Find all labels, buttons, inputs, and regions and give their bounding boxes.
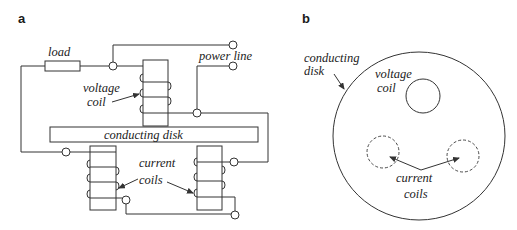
conducting-disk-label-line2: disk	[304, 64, 325, 78]
right-coil-output-terminal	[231, 211, 239, 219]
watt-hour-meter-diagram: a load	[0, 0, 517, 230]
voltage-coil-label-line1: voltage	[375, 67, 412, 81]
load-label: load	[48, 45, 71, 59]
power-line-label: power line	[198, 49, 253, 63]
current-coils-label-line2: coils	[404, 187, 428, 201]
load-resistor	[45, 61, 80, 71]
current-coil-right	[194, 146, 225, 210]
power-line-terminal-top	[229, 41, 237, 49]
voltage-coil-circle	[406, 79, 440, 113]
conducting-disk-label: conducting disk	[104, 128, 183, 142]
panel-b-label: b	[302, 11, 310, 26]
conducting-disk-label-line1: conducting	[304, 51, 360, 65]
current-coils-label-line1: current	[396, 171, 433, 185]
node-terminal	[109, 62, 117, 70]
voltage-coil-label-line2: coil	[377, 81, 396, 95]
node-terminal-right	[193, 109, 201, 117]
panel-a-label: a	[18, 11, 26, 26]
conducting-disk-arrow	[334, 74, 344, 89]
panel-b: b conducting disk voltage coil current c…	[302, 11, 505, 220]
voltage-coil-label-line2: coil	[87, 95, 106, 109]
panel-a: a load	[18, 11, 268, 219]
voltage-coil-arrow	[112, 94, 139, 102]
voltage-coil-label-line1: voltage	[83, 81, 120, 95]
current-coils-label-line1: current	[139, 156, 176, 170]
power-line-terminal-bottom	[229, 62, 237, 70]
current-coil-arrow-left	[119, 179, 138, 188]
current-coil-terminal-right	[230, 158, 238, 166]
current-coil-circle-right	[447, 140, 479, 172]
current-coil-terminal-left	[62, 148, 70, 156]
current-coil-arrow-right	[167, 182, 193, 193]
current-coil-left	[87, 146, 119, 210]
current-coils-label-line2: coils	[139, 173, 163, 187]
left-coil-output-terminal	[122, 196, 130, 204]
current-coil-circle-left	[367, 136, 399, 168]
voltage-coil	[140, 60, 171, 126]
